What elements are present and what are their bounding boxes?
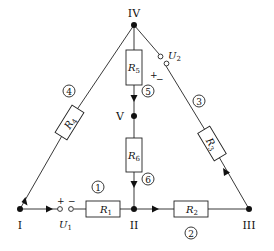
node-IV	[131, 22, 137, 28]
source-u1-label: U1	[59, 219, 72, 232]
source-u2-minus-sign: −	[156, 74, 164, 84]
branch-number-3: 3	[196, 97, 202, 107]
branch-4-wire-b	[76, 25, 134, 111]
node-II	[131, 206, 137, 212]
arrow-branch-1-icon	[46, 206, 53, 213]
branch-number-5: 5	[145, 87, 151, 97]
node-V	[131, 113, 137, 119]
arrow-branch-2-icon	[152, 206, 159, 213]
source-u1-plus-sign: +	[57, 196, 65, 206]
branch-number-6: 6	[145, 175, 151, 185]
branch-number-4: 4	[66, 87, 72, 97]
node-label-IV: IV	[128, 7, 141, 20]
node-I	[17, 206, 23, 212]
node-label-V: V	[115, 110, 125, 123]
branch-number-2: 2	[188, 229, 194, 239]
source-u2-label: U2	[168, 50, 181, 63]
source-u1-terminal-plus	[58, 207, 63, 212]
circuit-diagram: I II III IV V R1 R2 R5 R6 R4 R3 U1 + − U…	[0, 0, 274, 251]
branch-number-1: 1	[95, 183, 101, 193]
branch-3-wire-a	[219, 157, 249, 209]
source-u2-terminal-plus	[158, 54, 163, 59]
arrow-branch-6-icon	[131, 181, 138, 188]
source-u2-terminal-minus	[164, 61, 169, 66]
source-u1-terminal-minus	[69, 207, 74, 212]
node-III	[246, 206, 252, 212]
source-u1-minus-sign: −	[68, 196, 76, 206]
node-label-III: III	[242, 219, 255, 232]
arrow-branch-5-icon	[131, 95, 138, 102]
node-label-II: II	[130, 219, 139, 232]
node-label-I: I	[18, 219, 22, 232]
